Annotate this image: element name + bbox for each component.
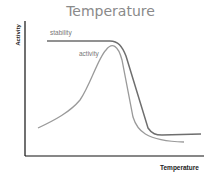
activity-line — [38, 46, 184, 142]
stability-line — [47, 41, 201, 135]
chart-plot — [0, 0, 221, 182]
